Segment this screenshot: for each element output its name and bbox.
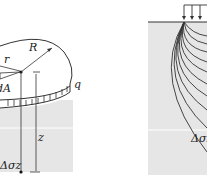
label-z: z (37, 131, 44, 144)
label-dA: dA (0, 82, 11, 95)
load-arrows-right (184, 5, 207, 18)
label-r: r (4, 53, 10, 66)
label-R: R (28, 41, 37, 54)
right-figure: Δσz (148, 5, 207, 175)
arrow-heads-right (182, 16, 202, 20)
left-figure: R r dA q z Δσz (0, 39, 81, 173)
label-stress-right: Δσz (190, 132, 207, 145)
diagram-canvas: R r dA q z Δσz Δσz (0, 0, 207, 182)
label-stress-left: Δσz (0, 159, 21, 172)
label-q: q (74, 78, 81, 91)
